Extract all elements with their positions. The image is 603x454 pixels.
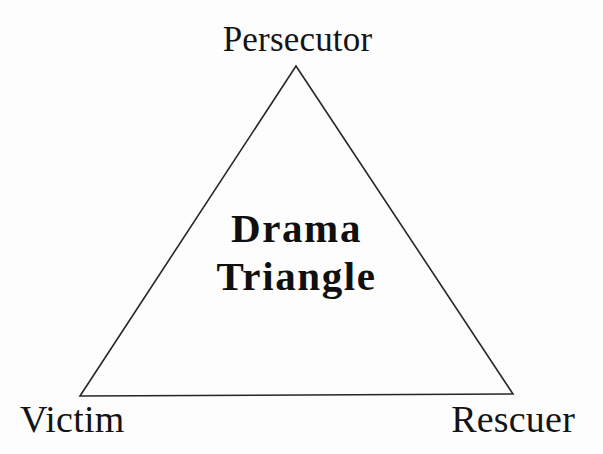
- vertex-label-persecutor: Persecutor: [0, 22, 599, 57]
- vertex-label-rescuer: Rescuer: [451, 400, 575, 438]
- center-caption: Drama Triangle: [0, 205, 598, 301]
- center-caption-line-1: Drama: [0, 205, 598, 253]
- vertex-label-victim: Victim: [20, 400, 124, 438]
- drama-triangle-diagram: Persecutor Drama Triangle Victim Rescuer: [0, 0, 603, 454]
- center-caption-line-2: Triangle: [0, 253, 598, 301]
